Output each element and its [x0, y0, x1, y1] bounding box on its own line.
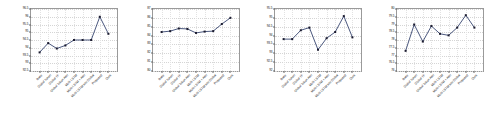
y-axis-tick-label: 79.5	[389, 15, 397, 18]
data-point-marker	[317, 49, 319, 51]
data-point-marker	[195, 32, 197, 34]
y-axis-tick-label: 92.5	[267, 61, 275, 64]
data-point-marker	[204, 31, 206, 33]
data-point-marker	[413, 24, 415, 26]
data-point-marker	[430, 25, 432, 27]
data-point-marker	[99, 16, 101, 18]
data-point-marker	[465, 14, 467, 16]
plot-area-3: 9292.59393.59494.59595.5BaseGlobal Token…	[274, 8, 362, 72]
data-point-marker	[308, 27, 310, 29]
data-polyline	[162, 18, 231, 33]
series-line-1	[31, 9, 117, 71]
data-point-marker	[64, 44, 66, 46]
data-point-marker	[178, 27, 180, 29]
chart-panel-4: 7676.57777.57878.57979.580BaseGlobal Tok…	[366, 0, 488, 114]
data-point-marker	[186, 28, 188, 30]
series-line-4	[397, 9, 483, 71]
data-point-marker	[56, 48, 58, 50]
data-point-marker	[39, 51, 41, 53]
y-axis-tick-label: 93.5	[23, 54, 31, 57]
data-point-marker	[229, 17, 231, 19]
data-point-marker	[90, 39, 92, 41]
data-point-marker	[439, 33, 441, 35]
data-point-marker	[221, 23, 223, 25]
data-point-marker	[326, 37, 328, 39]
chart-panel-1: 92.59393.59494.59595.59696.5BaseGlobal T…	[0, 0, 122, 114]
series-line-2	[153, 9, 239, 71]
data-point-marker	[47, 42, 49, 44]
chart-panel-2: 8081828384858687BaseGlobal TokenGlobal T…	[122, 0, 244, 114]
data-point-marker	[283, 38, 285, 40]
ablation-line-charts-figure: 92.59393.59494.59595.59696.5BaseGlobal T…	[0, 0, 488, 114]
data-point-marker	[107, 33, 109, 35]
y-axis-tick-label: 96.5	[23, 7, 31, 10]
data-point-marker	[448, 34, 450, 36]
x-axis-tick-label: Ours	[105, 74, 112, 81]
data-point-marker	[334, 31, 336, 33]
y-axis-tick-label: 95.5	[267, 7, 275, 10]
x-axis-tick-label: Ours	[227, 74, 234, 81]
y-axis-tick-label: 76.5	[389, 62, 397, 65]
data-point-marker	[291, 38, 293, 40]
y-axis-tick-label: 94.5	[267, 25, 275, 28]
data-polyline	[284, 16, 353, 50]
y-axis-tick-label: 92.5	[23, 69, 31, 72]
data-point-marker	[456, 27, 458, 29]
data-point-marker	[82, 39, 84, 41]
y-axis-tick-label: 78.5	[389, 31, 397, 34]
data-point-marker	[300, 29, 302, 31]
data-point-marker	[351, 36, 353, 38]
data-point-marker	[473, 27, 475, 29]
data-point-marker	[169, 30, 171, 32]
plot-area-1: 92.59393.59494.59595.59696.5BaseGlobal T…	[30, 8, 118, 72]
y-axis-tick-label: 95.5	[23, 23, 31, 26]
x-axis-tick-label: Ours	[349, 74, 356, 81]
chart-panel-3: 9292.59393.59494.59595.5BaseGlobal Token…	[244, 0, 366, 114]
y-axis-tick-label: 77.5	[389, 46, 397, 49]
y-axis-tick-label: 94.5	[23, 38, 31, 41]
data-point-marker	[405, 50, 407, 52]
data-point-marker	[73, 39, 75, 41]
data-polyline	[40, 17, 109, 53]
data-point-marker	[422, 41, 424, 43]
data-point-marker	[343, 15, 345, 17]
plot-area-2: 8081828384858687BaseGlobal TokenGlobal T…	[152, 8, 240, 72]
data-point-marker	[212, 30, 214, 32]
y-axis-tick-label: 93.5	[267, 43, 275, 46]
plot-area-4: 7676.57777.57878.57979.580BaseGlobal Tok…	[396, 8, 484, 72]
series-line-3	[275, 9, 361, 71]
data-point-marker	[161, 31, 163, 33]
x-axis-tick-label: Ours	[471, 74, 478, 81]
